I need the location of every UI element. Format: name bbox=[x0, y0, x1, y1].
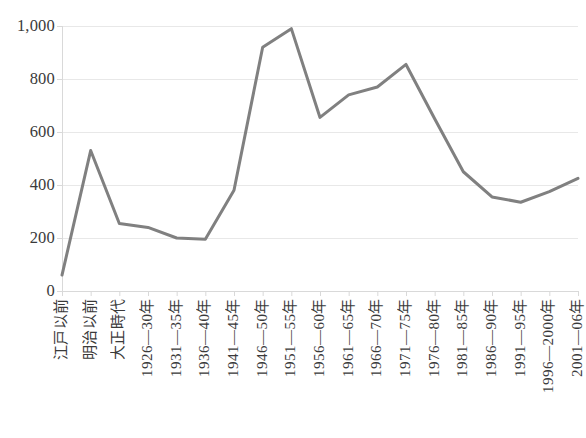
x-tick-label-wrap: 1981—85年 bbox=[449, 298, 478, 434]
x-tick-label: 1961—65年 bbox=[341, 298, 356, 377]
x-tick-label: 1946—50年 bbox=[255, 298, 270, 377]
x-tick-label-wrap: 1971—75年 bbox=[392, 298, 421, 434]
x-tick-label-wrap: 1941—45年 bbox=[220, 298, 249, 434]
x-tick-label-wrap: 江戸以前 bbox=[48, 298, 77, 434]
x-tick-label-wrap: 1926—30年 bbox=[134, 298, 163, 434]
x-tick-label: 1966—70年 bbox=[369, 298, 384, 377]
x-tick-label-wrap: 1996—2000年 bbox=[535, 298, 564, 434]
x-tick-label: 1996—2000年 bbox=[541, 298, 556, 393]
x-tick-label-wrap: 1956—60年 bbox=[306, 298, 335, 434]
x-tick-label: 1931—35年 bbox=[169, 298, 184, 377]
x-tick-label-wrap: 1946—50年 bbox=[248, 298, 277, 434]
x-tick-label: 2001—06年 bbox=[570, 298, 585, 377]
x-tick-label: 1956—60年 bbox=[312, 298, 327, 377]
x-tick-label-wrap: 2001—06年 bbox=[564, 298, 586, 434]
x-tick-label-wrap: 1986—90年 bbox=[478, 298, 507, 434]
x-tick-label: 明治以前 bbox=[83, 298, 98, 360]
x-tick-label-wrap: 1931—35年 bbox=[162, 298, 191, 434]
x-tick-label: 1976—80年 bbox=[427, 298, 442, 377]
x-tick-label-wrap: 1951—55年 bbox=[277, 298, 306, 434]
gridlines bbox=[62, 27, 578, 292]
x-tick-label-wrap: 1936—40年 bbox=[191, 298, 220, 434]
x-tick-label: 1936—40年 bbox=[197, 298, 212, 377]
x-tick-label-wrap: 明治以前 bbox=[76, 298, 105, 434]
x-tick-label-wrap: 1961—65年 bbox=[334, 298, 363, 434]
x-tick-label: 1926—30年 bbox=[140, 298, 155, 377]
x-tick-label: 1951—55年 bbox=[283, 298, 298, 377]
line-chart: 02004006008001,000 江戸以前明治以前大正時代1926—30年1… bbox=[0, 0, 586, 438]
x-tick-label-wrap: 1991—95年 bbox=[506, 298, 535, 434]
x-tick-label-wrap: 1976—80年 bbox=[420, 298, 449, 434]
x-tick-label: 江戸以前 bbox=[54, 298, 69, 360]
x-tick-label: 1971—75年 bbox=[398, 298, 413, 377]
x-tick-label-wrap: 1966—70年 bbox=[363, 298, 392, 434]
x-tick-label: 1991—95年 bbox=[513, 298, 528, 377]
y-tick-marks bbox=[57, 27, 62, 292]
x-tick-label: 1941—45年 bbox=[226, 298, 241, 377]
x-tick-label: 1986—90年 bbox=[484, 298, 499, 377]
x-axis-tick-labels: 江戸以前明治以前大正時代1926—30年1931—35年1936—40年1941… bbox=[0, 298, 586, 438]
x-tick-label: 大正時代 bbox=[111, 298, 126, 360]
x-tick-label-wrap: 大正時代 bbox=[105, 298, 134, 434]
x-tick-label: 1981—85年 bbox=[455, 298, 470, 377]
